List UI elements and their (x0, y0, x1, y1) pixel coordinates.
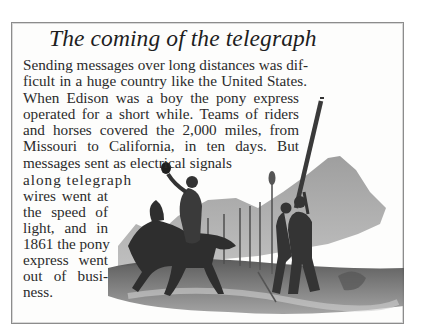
body-line-2: ficult in a huge country like the United… (23, 73, 307, 89)
body-line-6: Missouri to California, in ten days. But (23, 138, 299, 154)
body-line-7: messages sent as electrical signals (23, 155, 232, 171)
body-line-14: out of busi- (23, 268, 108, 284)
body-line-1: Sending messages over long distances was… (23, 57, 299, 73)
body-line-10: the speed of (23, 204, 108, 220)
body-line-4: operated for a short while. Teams of rid… (23, 106, 299, 122)
body-line-13: express went (23, 252, 108, 268)
body-line-3: When Edison was a boy the pony express (23, 90, 299, 106)
body-line-12: 1861 the pony (23, 236, 108, 252)
body-line-5: and horses covered the 2,000 miles, from (23, 122, 299, 138)
body-line-11: light, and in (23, 220, 108, 236)
body-line-8: along telegraph (23, 172, 131, 188)
body-line-9: wires went at (23, 188, 108, 204)
body-line-15: ness. (23, 284, 53, 300)
sidebar-title: The coming of the telegraph (49, 25, 317, 52)
